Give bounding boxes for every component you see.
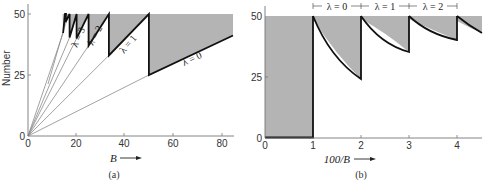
- panel-b-shaded-area: [265, 16, 482, 138]
- x-tick-60: 60: [167, 138, 179, 149]
- panel-b: 50 25 0 0 1 2 3 4 100/B (b) λ = 0 λ = 1 …: [251, 1, 482, 182]
- bracket-lambda-1: λ = 1: [375, 1, 396, 12]
- x-tick-40: 40: [118, 138, 130, 149]
- b-x-tick-3: 3: [406, 140, 412, 151]
- panel-b-caption: (b): [355, 169, 367, 181]
- b-x-tick-4: 4: [454, 140, 460, 151]
- x-tick-80: 80: [216, 138, 228, 149]
- bracket-lambda-2: λ = 2: [423, 1, 444, 12]
- b-x-tick-0: 0: [262, 140, 268, 151]
- panel-a: 50 25 0 0 20 40 60 80 Number B (a) λ = 0…: [1, 4, 234, 181]
- x-tick-0: 0: [25, 138, 31, 149]
- b-y-tick-25: 25: [251, 72, 263, 83]
- panel-b-x-label: 100/B: [324, 153, 351, 165]
- b-x-tick-2: 2: [358, 140, 364, 151]
- b-x-tick-1: 1: [310, 140, 316, 151]
- panel-a-caption: (a): [108, 169, 119, 181]
- panel-a-y-label: Number: [1, 50, 12, 86]
- arrow-right-icon: [120, 156, 142, 160]
- bracket-lambda-0: λ = 0: [327, 1, 348, 12]
- panel-a-x-label: B: [110, 152, 117, 164]
- figure: 50 25 0 0 20 40 60 80 Number B (a) λ = 0…: [0, 0, 486, 182]
- y-tick-25: 25: [14, 70, 26, 81]
- y-tick-50: 50: [14, 9, 26, 20]
- x-tick-20: 20: [70, 138, 82, 149]
- arrow-right-icon: [354, 157, 376, 161]
- b-y-tick-50: 50: [251, 11, 263, 22]
